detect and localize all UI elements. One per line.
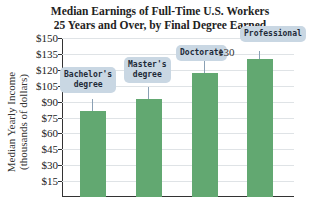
y-tick [58, 102, 62, 103]
y-tick-label: $150 [36, 32, 58, 44]
y-tick-label: $75 [42, 112, 59, 124]
callout-pointer [204, 61, 205, 73]
y-tick [58, 38, 62, 39]
y-tick [58, 118, 62, 119]
y-tick-label: $15 [42, 175, 59, 187]
y-tick [58, 54, 62, 55]
value-annotation: 130 [218, 46, 235, 58]
category-label: Bachelor'sdegree [60, 67, 116, 93]
y-axis-label-line-2: (thousands of dollars) [17, 47, 29, 197]
callout-pointer [92, 99, 93, 111]
category-label: Professional [240, 26, 306, 42]
y-tick [58, 149, 62, 150]
bar-professional [247, 59, 273, 197]
y-tick-label: $45 [42, 143, 59, 155]
y-tick-label: $105 [36, 80, 58, 92]
y-tick [58, 181, 62, 182]
y-axis-label-line-1: Median Yearly Income [5, 47, 17, 197]
callout-pointer [259, 51, 260, 59]
callout-pointer [148, 87, 149, 99]
chart-title-line-1: Median Earnings of Full-Time U.S. Worker… [0, 4, 320, 18]
bar-master-s-degree [136, 99, 162, 197]
y-tick [58, 165, 62, 166]
y-tick-label: $90 [42, 96, 59, 108]
y-tick [58, 133, 62, 134]
category-label: Master'sdegree [124, 57, 171, 83]
y-tick-label: $120 [36, 64, 58, 76]
y-tick-label: $60 [42, 127, 59, 139]
y-tick-label: $135 [36, 48, 58, 60]
y-axis-label: Median Yearly Income (thousands of dolla… [5, 47, 29, 197]
y-tick-label: $30 [42, 159, 59, 171]
plot-area: $15$30$45$60$75$90$105$120$135$150Bachel… [62, 38, 294, 197]
bar-bachelor-s-degree [80, 111, 106, 197]
bar-doctorate [192, 73, 218, 197]
